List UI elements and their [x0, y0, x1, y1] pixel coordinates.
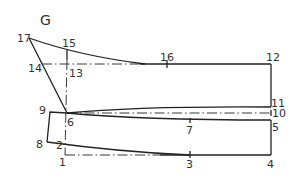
- curve-8-to-3: [47, 142, 190, 155]
- label-14: 14: [28, 62, 42, 75]
- label-16: 16: [160, 51, 174, 64]
- vertical-guide-15-1: [65, 60, 67, 155]
- curve-17-to-top-line: [29, 38, 145, 64]
- label-13: 13: [69, 67, 83, 80]
- label-1: 1: [59, 156, 66, 169]
- diagram-title: G: [40, 12, 51, 28]
- curve-6-to-5: [67, 113, 271, 120]
- label-12: 12: [266, 51, 280, 64]
- label-10: 10: [272, 107, 286, 120]
- label-9: 9: [39, 104, 46, 117]
- label-17: 17: [17, 32, 31, 45]
- label-8: 8: [36, 138, 43, 151]
- label-6: 6: [67, 116, 74, 129]
- label-5: 5: [272, 121, 279, 134]
- label-3: 3: [186, 158, 193, 171]
- label-2: 2: [56, 139, 63, 152]
- label-4: 4: [267, 158, 274, 171]
- label-7: 7: [186, 124, 193, 137]
- label-15: 15: [62, 37, 76, 50]
- outline-6-9-8: [47, 112, 67, 142]
- pattern-draft-diagram: G 17 15 16 12 14 13 9 6 11 10 5 7 8 2 1 …: [0, 0, 300, 182]
- curve-6-to-11: [67, 107, 271, 113]
